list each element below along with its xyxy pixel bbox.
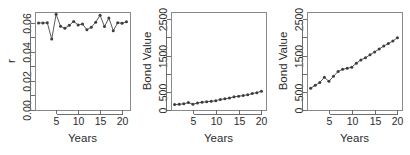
series-data-point [318, 81, 321, 84]
y-axis-title: Bond Value [141, 32, 153, 91]
plot-frame [172, 13, 267, 111]
panel-plot-area: 0500150025005101520YearsBond Value [136, 0, 273, 155]
x-axis-tick-label: 15 [370, 115, 382, 127]
series-data-point [219, 98, 222, 101]
series-data-point [382, 45, 385, 48]
x-axis-tick-label: 15 [95, 115, 107, 127]
x-axis-tick-label: 5 [327, 115, 333, 127]
y-axis-title: Bond Value [277, 32, 289, 91]
x-axis-tick-label: 20 [117, 115, 129, 127]
panel-plot-area: 0.000.020.040.065101520Yearsr [0, 0, 137, 155]
series-data-point [314, 84, 317, 87]
x-axis-tick-label: 10 [347, 115, 359, 127]
series-data-point [309, 87, 312, 90]
series-data-point [55, 13, 58, 16]
series-data-point [396, 36, 399, 39]
multi-panel-chart-figure: 0.000.020.040.065101520Yearsr 0500150025… [0, 0, 410, 155]
series-data-point [191, 103, 194, 106]
series-data-point [242, 94, 245, 97]
x-axis-title: Years [68, 132, 97, 144]
series-data-point [99, 14, 102, 17]
series-data-point [125, 20, 128, 23]
series-data-point [223, 97, 226, 100]
series-data-point [182, 102, 185, 105]
x-axis-tick-label: 10 [73, 115, 85, 127]
series-data-point [103, 25, 106, 28]
x-axis-title: Years [204, 132, 233, 144]
y-axis-title: r [5, 59, 17, 63]
series-data-point [94, 21, 97, 24]
series-data-point [355, 62, 358, 65]
plot-frame [36, 13, 131, 111]
series-data-point [255, 91, 258, 94]
chart-panel-r: 0.000.020.040.065101520Yearsr [0, 0, 137, 155]
series-data-point [85, 28, 88, 31]
series-data-point [332, 75, 335, 78]
series-data-point [173, 103, 176, 106]
x-axis-tick-label: 10 [211, 115, 223, 127]
series-data-point [121, 22, 124, 25]
series-line [39, 14, 127, 39]
series-data-point [237, 95, 240, 98]
chart-panel-bond-value-high: 0500150025005101520YearsBond Value [272, 0, 409, 155]
series-data-point [341, 68, 344, 71]
series-data-point [391, 40, 394, 43]
x-axis-title: Years [340, 132, 369, 144]
x-axis-tick-label: 20 [392, 115, 404, 127]
series-data-point [359, 58, 362, 61]
series-data-point [63, 27, 66, 30]
series-data-point [210, 100, 213, 103]
x-axis-tick-label: 5 [54, 115, 60, 127]
series-data-point [350, 66, 353, 69]
x-axis-tick-label: 20 [256, 115, 268, 127]
series-data-point [81, 23, 84, 26]
series-data-point [196, 101, 199, 104]
chart-panel-bond-value-low: 0500150025005101520YearsBond Value [136, 0, 273, 155]
series-data-point [116, 21, 119, 24]
series-data-point [178, 103, 181, 106]
series-data-point [46, 21, 49, 24]
series-data-point [246, 93, 249, 96]
series-data-point [228, 97, 231, 100]
series-data-point [233, 95, 236, 98]
series-data-point [369, 53, 372, 56]
panel-plot-area: 0500150025005101520YearsBond Value [272, 0, 409, 155]
series-data-point [77, 23, 80, 26]
plot-frame [308, 13, 403, 111]
series-data-point [90, 26, 93, 29]
series-data-point [214, 99, 217, 102]
series-data-point [59, 25, 62, 28]
series-data-point [364, 56, 367, 59]
series-data-point [187, 101, 190, 104]
series-data-point [37, 21, 40, 24]
series-data-point [205, 100, 208, 103]
series-data-point [50, 38, 53, 41]
series-data-point [323, 76, 326, 79]
series-data-point [72, 20, 75, 23]
series-data-point [387, 42, 390, 45]
series-data-point [251, 92, 254, 95]
x-axis-tick-label: 5 [191, 115, 197, 127]
series-data-point [260, 90, 263, 93]
series-data-point [112, 29, 115, 32]
series-data-point [201, 101, 204, 104]
series-data-point [41, 22, 44, 25]
x-axis-tick-label: 15 [234, 115, 246, 127]
series-data-point [107, 16, 110, 19]
series-data-point [373, 50, 376, 53]
series-data-point [337, 70, 340, 73]
series-data-point [327, 80, 330, 83]
series-data-point [378, 48, 381, 51]
series-data-point [68, 24, 71, 27]
series-data-point [346, 67, 349, 70]
